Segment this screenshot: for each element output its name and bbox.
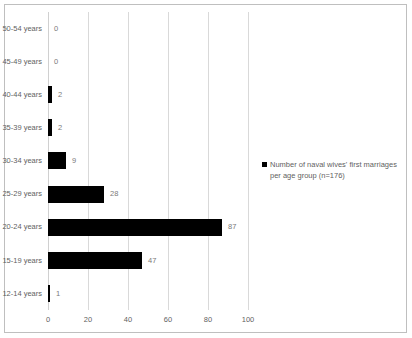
y-axis-tick-label: 15-19 years	[2, 244, 42, 277]
y-axis-category-labels: 50-54 years45-49 years40-44 years35-39 y…	[4, 12, 46, 310]
x-axis-tick-label: 0	[46, 316, 50, 324]
bar-value-label: 9	[72, 157, 76, 165]
bar-row: 0	[48, 12, 248, 45]
bar-rows: 002292887471	[48, 12, 248, 310]
bar	[48, 252, 142, 269]
y-axis-tick-label: 30-34 years	[2, 144, 42, 177]
plot-area: 002292887471	[48, 12, 248, 310]
bar-value-label: 87	[228, 223, 236, 231]
bar	[48, 219, 222, 236]
bar-value-label: 2	[58, 124, 62, 132]
x-axis-tick-label: 60	[164, 316, 172, 324]
bar	[48, 152, 66, 169]
bar-value-label: 47	[148, 257, 156, 265]
bar-value-label: 2	[58, 91, 62, 99]
bar	[48, 86, 52, 103]
x-axis-tick-label: 20	[84, 316, 92, 324]
bar	[48, 119, 52, 136]
gridline-100	[248, 12, 249, 310]
y-axis-tick-label: 50-54 years	[2, 12, 42, 45]
bar-row: 47	[48, 244, 248, 277]
y-axis-tick-label: 25-29 years	[2, 178, 42, 211]
y-axis-tick-label: 20-24 years	[2, 211, 42, 244]
bar-row: 1	[48, 277, 248, 310]
y-axis-tick-label: 35-39 years	[2, 111, 42, 144]
bar-value-label: 0	[54, 25, 58, 33]
bar-value-label: 0	[54, 58, 58, 66]
chart-figure: 50-54 years45-49 years40-44 years35-39 y…	[0, 0, 412, 338]
bar-row: 87	[48, 211, 248, 244]
bar-row: 2	[48, 111, 248, 144]
bar	[48, 285, 50, 302]
x-axis-tick-label: 40	[124, 316, 132, 324]
bar-row: 28	[48, 178, 248, 211]
bar-row: 2	[48, 78, 248, 111]
legend-label: Number of naval wives' first marriages p…	[270, 160, 398, 182]
y-axis-tick-label: 45-49 years	[2, 45, 42, 78]
x-axis-tick-label: 100	[242, 316, 255, 324]
x-axis: 020406080100	[48, 310, 248, 330]
y-axis-tick-label: 12-14 years	[2, 277, 42, 310]
chart-legend: Number of naval wives' first marriages p…	[262, 160, 402, 182]
bar-row: 0	[48, 45, 248, 78]
legend-square-marker-icon	[262, 162, 267, 167]
bar-value-label: 1	[56, 290, 60, 298]
x-axis-tick-label: 80	[204, 316, 212, 324]
bar-value-label: 28	[110, 190, 118, 198]
y-axis-tick-label: 40-44 years	[2, 78, 42, 111]
bar-row: 9	[48, 144, 248, 177]
bar	[48, 186, 104, 203]
